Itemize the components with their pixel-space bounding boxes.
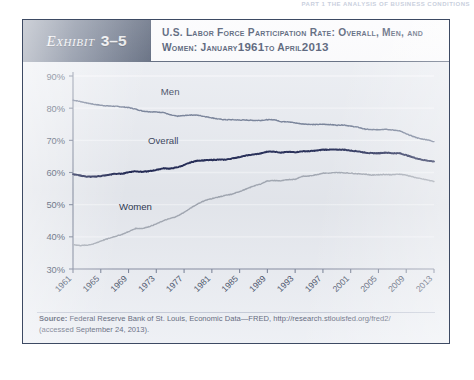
svg-text:80%: 80% (46, 104, 65, 114)
svg-text:60%: 60% (46, 168, 65, 178)
exhibit-header: Exhibit 3–5 U.S. Labor Force Participati… (23, 20, 449, 62)
exhibit-title: U.S. Labor Force Participation Rate: Ove… (151, 20, 449, 62)
exhibit-tag-number: 3–5 (101, 32, 127, 50)
svg-text:1977: 1977 (164, 273, 185, 294)
svg-text:70%: 70% (46, 136, 65, 146)
series-label-overall: Overall (148, 135, 178, 146)
svg-text:90%: 90% (46, 72, 65, 82)
plot-area: 30%40%50%60%70%80%90% 196119651969197319… (23, 62, 449, 325)
source-label: Source: (39, 314, 67, 323)
title-line2-part-a: Women: January (162, 42, 238, 53)
svg-text:2013: 2013 (414, 273, 435, 294)
svg-text:2009: 2009 (386, 273, 407, 294)
svg-text:1965: 1965 (81, 273, 102, 294)
line-chart: 30%40%50%60%70%80%90% 196119651969197319… (23, 62, 448, 325)
series-label-women: Women (119, 201, 152, 212)
svg-text:1997: 1997 (303, 273, 324, 294)
svg-text:1993: 1993 (275, 273, 296, 294)
source-note: Source: Federal Reserve Bank of St. Loui… (23, 311, 449, 343)
exhibit-tag: Exhibit 3–5 (23, 20, 151, 62)
title-year-start: 1961 (238, 40, 265, 53)
svg-text:1989: 1989 (247, 273, 268, 294)
exhibit-tag-word: Exhibit (46, 33, 94, 50)
y-axis-ticks: 30%40%50%60%70%80%90% (46, 72, 73, 275)
svg-text:40%: 40% (46, 232, 65, 242)
svg-text:50%: 50% (46, 200, 65, 210)
title-year-end: 2013 (302, 40, 329, 53)
source-line2: (accessed September 24, 2013). (39, 325, 435, 336)
svg-text:1973: 1973 (136, 273, 157, 294)
series-inline-labels: MenOverallWomen (119, 86, 179, 212)
exhibit-panel: Exhibit 3–5 U.S. Labor Force Participati… (22, 19, 450, 344)
svg-text:1969: 1969 (108, 273, 129, 294)
series-label-men: Men (161, 86, 180, 97)
svg-text:1985: 1985 (219, 273, 240, 294)
exhibit-title-line2: Women: January1961to April2013 (162, 40, 449, 55)
x-axis-ticks: 1961196519691973197719811985198919931997… (53, 269, 435, 294)
svg-text:2005: 2005 (358, 273, 379, 294)
svg-text:2001: 2001 (331, 273, 352, 294)
svg-text:30%: 30% (46, 265, 65, 275)
svg-text:1961: 1961 (53, 273, 74, 294)
title-line2-part-b: to April (265, 42, 302, 53)
svg-text:1981: 1981 (192, 273, 213, 294)
source-line1: Federal Reserve Bank of St. Louis, Econo… (67, 314, 390, 323)
running-head-sub (255, 8, 470, 15)
exhibit-title-line1: U.S. Labor Force Participation Rate: Ove… (162, 26, 449, 40)
